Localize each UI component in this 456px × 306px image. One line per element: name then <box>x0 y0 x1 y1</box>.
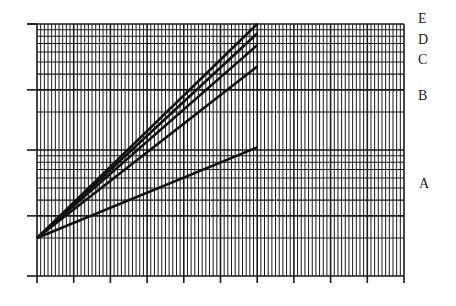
series-label-d: D <box>418 32 428 48</box>
series-label-c: C <box>418 52 427 68</box>
series-label-e: E <box>418 11 427 27</box>
series-label-a: A <box>419 176 429 192</box>
semilog-chart <box>0 0 456 306</box>
horizontal-gridlines <box>27 24 404 276</box>
series-label-b: B <box>418 88 427 104</box>
